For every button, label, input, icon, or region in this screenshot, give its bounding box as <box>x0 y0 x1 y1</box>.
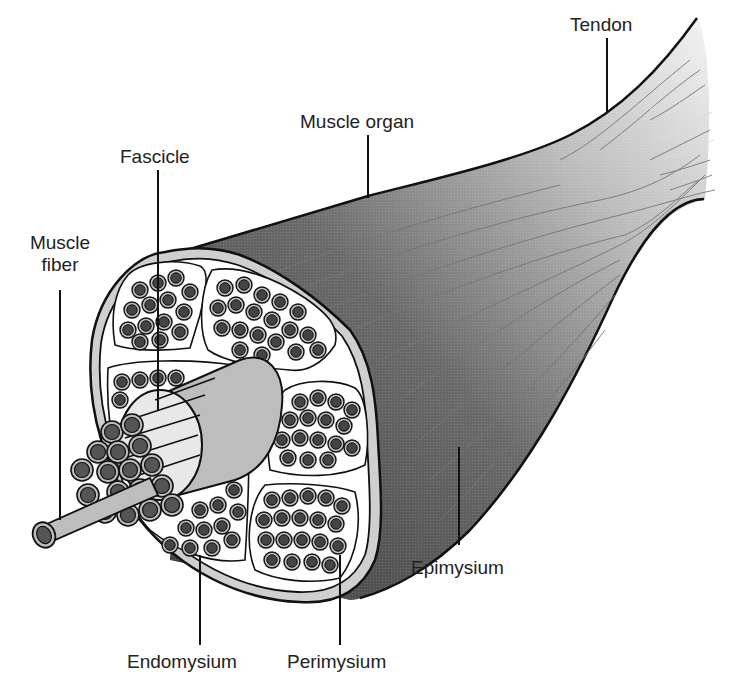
label-fascicle: Fascicle <box>120 146 190 168</box>
label-endomysium: Endomysium <box>127 651 237 673</box>
label-muscle-fiber: Muscle fiber <box>24 232 96 276</box>
muscle-anatomy-diagram: Tendon Muscle organ Fascicle Muscle fibe… <box>0 0 739 696</box>
label-muscle-fiber-line2: fiber <box>24 254 96 276</box>
label-muscle-fiber-line1: Muscle <box>24 232 96 254</box>
label-perimysium: Perimysium <box>287 651 386 673</box>
label-epimysium: Epimysium <box>411 557 504 579</box>
muscle-illustration <box>0 0 739 696</box>
label-tendon: Tendon <box>570 14 632 36</box>
label-muscle-organ: Muscle organ <box>300 111 414 133</box>
